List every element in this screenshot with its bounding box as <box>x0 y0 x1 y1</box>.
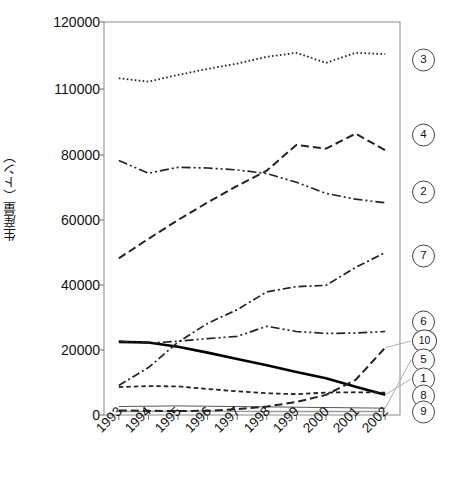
legend-item-2[interactable]: 2 <box>412 181 435 204</box>
legend-item-4[interactable]: 4 <box>412 124 435 147</box>
production-volume-line-chart: 生産量（トン） 02000040000600008000011000012000… <box>0 0 468 495</box>
legend-item-7[interactable]: 7 <box>412 245 435 268</box>
legend-item-3[interactable]: 3 <box>412 49 435 72</box>
legend-item-9[interactable]: 9 <box>412 401 435 424</box>
legend: 34276105189 <box>0 0 468 495</box>
